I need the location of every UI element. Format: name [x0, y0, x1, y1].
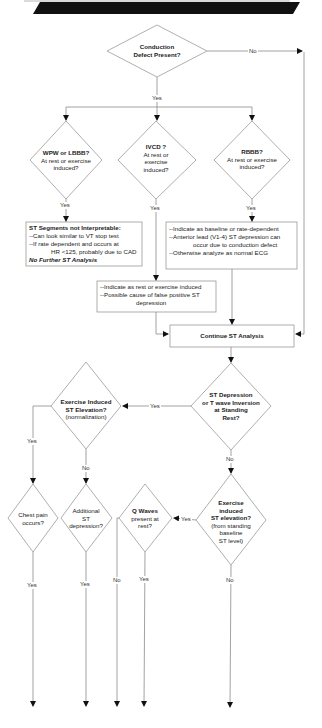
ivcd-question: IVCD ? At rest or exercise induced? — [126, 143, 186, 173]
st-depression-question: ST Depression or T wave Inversion at Sta… — [196, 391, 266, 421]
wpw-lbbb-question: WPW or LBBB? At rest or exercise induced… — [30, 149, 102, 172]
exercise-st-elevation-question: Exercise Induced ST Elevation? (normaliz… — [56, 398, 116, 421]
edge-label-conduction-no: No — [248, 48, 258, 55]
rbbb-notes-text: --Indicate as baseline or rate-dependent… — [169, 225, 296, 257]
edge-label-additional-yes: Yes — [79, 581, 91, 588]
edge-label-rbbb-yes: Yes — [245, 205, 257, 212]
chest-pain-question: Chest pain occurs? — [10, 511, 56, 526]
st-not-interpretable-text: ST Segments not Interpretable: --Can loo… — [29, 224, 141, 264]
edge-label-wpw-yes: Yes — [59, 202, 71, 209]
edge-label-st-depression-yes: Yes — [149, 403, 161, 410]
exercise-from-standing-question: Exercise induced ST elevation? (from sta… — [201, 499, 261, 545]
header-bar — [33, 2, 300, 14]
q-waves-question: Q Waves present at rest? — [122, 507, 168, 530]
ivcd-notes-text: --Indicate as rest or exercise induced -… — [100, 283, 215, 307]
edge-label-elevation-no: No — [81, 465, 91, 472]
edge-label-conduction-yes: Yes — [151, 95, 163, 102]
continue-st-analysis: Continue ST Analysis — [170, 332, 294, 340]
edge-label-st-depression-no: No — [225, 456, 235, 463]
edge-label-ivcd-yes: Yes — [149, 205, 161, 212]
edge-label-elevation-yes: Yes — [26, 438, 38, 445]
rbbb-question: RBBB? At rest or exercise induced? — [216, 148, 288, 171]
edge-label-chest-pain-yes: Yes — [26, 582, 38, 589]
flowchart-graphics — [0, 0, 322, 728]
conduction-defect-question: Conduction Defect Present? — [117, 43, 197, 58]
additional-st-question: Additional ST depression? — [63, 507, 109, 530]
flowchart: Conduction Defect Present? WPW or LBBB? … — [0, 0, 322, 728]
edge-label-from-standing-no: No — [225, 577, 235, 584]
edge-label-from-standing-yes: Yes — [180, 516, 192, 523]
edge-label-q-waves-yes: Yes — [138, 576, 150, 583]
edge-label-q-waves-no: No — [112, 577, 122, 584]
